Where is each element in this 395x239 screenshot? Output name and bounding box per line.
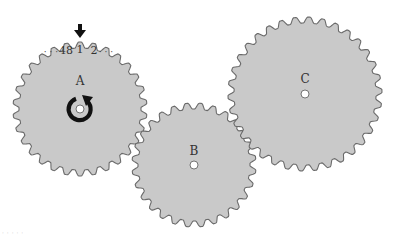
axle-hole <box>76 105 84 113</box>
ellipsis-right: · · · <box>99 47 113 57</box>
tooth-numbering-gear-a: · · · 48 1 2 · · · <box>44 43 113 57</box>
tooth-number-2: 2 <box>91 44 98 57</box>
watermark-text: · · · · · <box>2 229 24 236</box>
down-arrow-icon <box>74 24 86 38</box>
tooth-number-48: 48 <box>59 44 73 57</box>
gear-label: A <box>75 74 85 88</box>
gear-label: C <box>300 72 309 86</box>
axle-hole <box>301 90 309 98</box>
axle-hole <box>190 161 198 169</box>
ellipsis-left: · · · <box>44 47 58 57</box>
gear-a: A <box>13 42 146 176</box>
tooth-number-1: 1 <box>77 43 84 56</box>
gear-diagram: ABC · · · 48 1 2 · · · <box>0 0 395 239</box>
gear-label: B <box>190 144 199 158</box>
gear-c: C <box>228 17 382 171</box>
